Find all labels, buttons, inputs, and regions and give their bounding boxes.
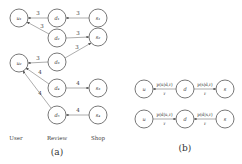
svg-text:d₁: d₁: [54, 15, 59, 21]
svg-text:s: s: [224, 116, 227, 122]
node-d-row1: d: [176, 80, 194, 98]
node-s-row1: s: [216, 80, 234, 98]
node-d3: d₃: [48, 53, 66, 71]
svg-text:d₂: d₂: [54, 35, 59, 41]
node-u-row1: u: [135, 80, 153, 98]
node-d1: d₁: [48, 9, 66, 27]
column-label-shop: Shop: [91, 135, 106, 142]
weight-s4-d5: 4: [76, 107, 80, 113]
edge-label-bottom-1-1: r: [163, 91, 165, 96]
svg-text:u: u: [142, 116, 145, 122]
node-d5: d₅: [48, 106, 66, 124]
node-s-row2: s: [216, 110, 234, 128]
node-u1: u₁: [10, 9, 28, 27]
node-s3: s₃: [89, 79, 107, 97]
svg-text:d₅: d₅: [54, 112, 59, 118]
panel-a-nodes: u₁ u₂ d₁ d₂ d₃ d₄ d₅ s₁ s₂ s₃ s₄: [10, 9, 107, 124]
edge-label-top-2-2: p(d|s,r): [197, 112, 213, 117]
column-label-review: Review: [47, 135, 68, 141]
node-u-row2: u: [135, 110, 153, 128]
panel-b-row-2: p(d|u,r) r p(d|s,r) r u d s: [135, 110, 234, 128]
weight-d4-u2: 4: [38, 69, 42, 75]
edge-d2-s2: [66, 37, 89, 38]
edge-label-top-1-2: p(s|d,r): [197, 82, 213, 87]
column-label-user: User: [9, 135, 23, 141]
edge-label-top-2-1: p(d|u,r): [156, 112, 172, 117]
weight-s1-d1: 3: [76, 10, 80, 16]
svg-text:d₃: d₃: [54, 59, 59, 65]
svg-text:s₂: s₂: [96, 34, 101, 40]
node-u2: u₂: [10, 54, 28, 72]
node-d-row2: d: [176, 110, 194, 128]
edge-label-bottom-2-1: r: [163, 121, 165, 126]
panel-b-caption: (b): [179, 143, 192, 153]
node-s4: s₄: [89, 106, 107, 124]
node-s2: s₂: [89, 28, 107, 46]
diagram-canvas: 3 3 3 3 3 3 4 4 4 4 u₁ u₂ d₁ d₂ d₃ d₄ d₅…: [0, 0, 242, 164]
svg-text:d: d: [183, 116, 186, 122]
weight-d3-u2: 3: [36, 55, 40, 61]
node-s1: s₁: [89, 9, 107, 27]
weight-d3-s2: 3: [75, 44, 79, 50]
edge-label-bottom-1-2: r: [204, 91, 206, 96]
svg-text:s: s: [224, 86, 227, 92]
svg-text:s₃: s₃: [96, 85, 101, 91]
edge-d5-u2: [23, 71, 51, 108]
weight-d2-s2: 3: [76, 30, 80, 36]
node-d2: d₂: [48, 29, 66, 47]
svg-text:d: d: [183, 86, 186, 92]
edge-d2-u1: [27, 22, 49, 34]
node-d4: d₄: [48, 79, 66, 97]
weight-d1-u1: 3: [36, 10, 40, 16]
weight-d5-u2: 4: [38, 90, 42, 96]
svg-text:s₁: s₁: [96, 15, 101, 21]
svg-text:d₄: d₄: [54, 85, 59, 91]
weight-d4-s3: 4: [76, 80, 80, 86]
edge-label-top-1-1: p(u|d,r): [156, 82, 172, 87]
edge-d3-u2: [28, 62, 48, 63]
panel-a-caption: (a): [51, 147, 63, 157]
panel-b-row-1: p(u|d,r) r p(s|d,r) r u d s: [135, 80, 234, 98]
svg-text:s₄: s₄: [96, 112, 101, 118]
weight-d2-u1: 3: [40, 23, 44, 29]
svg-text:u: u: [142, 86, 145, 92]
svg-text:u₂: u₂: [16, 60, 21, 66]
edge-label-bottom-2-2: r: [204, 121, 206, 126]
svg-text:u₁: u₁: [16, 15, 21, 21]
